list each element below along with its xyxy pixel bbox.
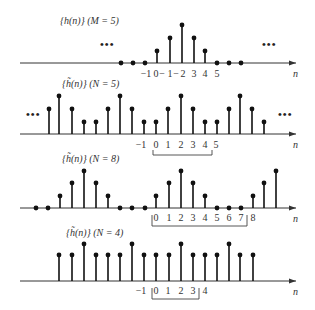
tick-label: 0 [154,285,159,296]
tick-label: 1 [168,68,173,79]
stem-sample [143,206,148,211]
stem-sample [262,120,267,134]
tick-label: 2 [179,285,184,296]
panel-htilde-N8: {h̃(n)} (N = 8)n012345678 [20,152,298,226]
axis-arrow-icon [289,206,296,211]
tick-label: −1 [136,139,147,150]
stem-sample [274,169,279,208]
stem-sample [142,120,147,134]
stem-sample [143,61,148,66]
stem-sample [57,94,62,134]
tick-label: − [159,68,165,79]
stem-sample [192,36,197,63]
tick-label: 4 [203,139,208,150]
stem-sample [130,107,135,134]
stem-sample [82,169,87,208]
tick-label: 5 [214,139,219,150]
stem-sample [180,23,185,63]
stem-sample [154,120,159,134]
tick-label: 8 [251,212,256,223]
stem-plot-figure: {h(n)} (M = 5)n••••••−10−1−2345{h̃(n)} (… [0,0,315,310]
stem-sample [239,206,244,211]
stem-sample [238,94,243,134]
stem-sample [142,253,147,281]
stem-sample [155,49,160,63]
stem-sample [227,107,232,134]
stem-sample [167,253,172,281]
stem-sample [46,206,51,211]
stem-sample [227,61,232,66]
stem-sample [58,194,63,208]
stem-sample [167,181,172,208]
tick-label: − [173,68,179,79]
stem-sample [106,253,111,281]
ellipsis-icon: ••• [262,38,277,50]
tick-label: 3 [191,212,196,223]
stem-sample [239,61,244,66]
stem-sample [94,120,99,134]
axis-label-n: n [293,213,298,224]
stem-sample [94,253,99,281]
stem-sample [34,206,39,211]
stem-sample [191,181,196,208]
stem-sample [215,120,220,134]
stem-sample [106,107,111,134]
tick-label: −1 [136,285,147,296]
stem-sample [238,253,243,281]
panel-title: {h̃(n)} (N = 8) [62,152,120,165]
stem-sample [70,107,75,134]
ellipsis-icon: ••• [278,108,293,120]
stem-sample [118,94,123,134]
stem-sample [203,49,208,63]
stem-sample [179,94,184,134]
stem-sample [179,169,184,208]
panel-htilde-N5: {h̃(n)} (N = 5)n••••••−1012345 [20,77,298,155]
tick-label: 4 [203,212,208,223]
stem-sample [82,242,87,281]
stem-sample [227,242,232,281]
stem-sample [179,242,184,281]
stem-sample [119,61,124,66]
period-bracket [153,150,212,155]
stem-sample [251,194,256,208]
tick-label: 4 [203,285,208,296]
stem-sample [130,206,135,211]
stem-sample [70,181,75,208]
tick-label: 2 [179,212,184,223]
tick-label: 3 [191,139,196,150]
stem-sample [166,107,171,134]
tick-label: 0 [154,139,159,150]
tick-label: 3 [191,285,196,296]
axis-label-n: n [293,286,298,297]
stem-sample [250,107,255,134]
tick-label: 4 [203,68,208,79]
stem-sample [203,253,208,281]
tick-label: 6 [227,212,232,223]
stem-sample [154,253,159,281]
axis-arrow-icon [289,61,296,66]
tick-label: 1 [166,285,171,296]
stem-sample [191,107,196,134]
stem-sample [118,253,123,281]
tick-label: 0 [154,68,159,79]
stem-sample [94,181,99,208]
axis-arrow-icon [289,132,296,137]
stem-sample [47,107,52,134]
stem-sample [154,194,159,208]
stem-sample [106,194,111,208]
stem-sample [227,206,232,211]
stem-sample [203,194,208,208]
panel-h-M5: {h(n)} (M = 5)n••••••−10−1−2345 [20,15,298,79]
stem-sample [251,253,256,281]
stem-sample [168,36,173,63]
tick-label: 0 [154,212,159,223]
tick-label: 2 [181,68,186,79]
stem-sample [215,206,220,211]
ellipsis-icon: ••• [100,38,115,50]
stem-sample [70,253,75,281]
panel-title: {h̃(n)} (N = 4) [66,226,124,239]
tick-label: 5 [215,212,220,223]
stem-sample [82,120,87,134]
stem-sample [57,253,62,281]
tick-label: 2 [179,139,184,150]
